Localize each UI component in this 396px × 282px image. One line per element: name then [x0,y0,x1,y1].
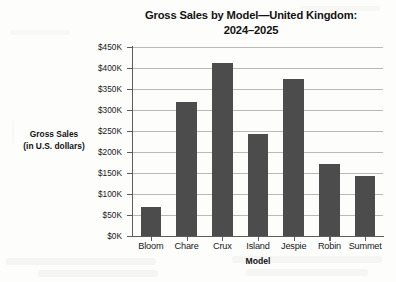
y-tick-label: $400K [64,64,122,73]
gridline [133,68,383,69]
y-tick-label: $250K [64,127,122,136]
bar[interactable] [176,102,197,236]
bar[interactable] [248,134,269,236]
bar-chart: Gross Sales by Model—United Kingdom: 202… [0,0,396,282]
gridline [133,110,383,111]
y-tick-mark [127,173,132,174]
chart-title-line-2: 2024–2025 [110,23,392,38]
bar[interactable] [212,63,233,236]
x-tick-label: Summet [343,241,387,252]
y-tick-label: $0K [64,232,122,241]
gridline [133,89,383,90]
y-tick-mark [127,131,132,132]
gridline [133,47,383,48]
bar[interactable] [355,176,376,236]
chart-title-line-1: Gross Sales by Model—United Kingdom: [110,8,392,23]
y-tick-label: $300K [64,106,122,115]
bar[interactable] [283,79,304,236]
bar[interactable] [141,207,162,236]
plot-area [133,47,383,236]
y-tick-mark [127,152,132,153]
y-tick-label: $350K [64,85,122,94]
y-tick-mark [127,194,132,195]
y-tick-mark [127,236,132,237]
chart-title: Gross Sales by Model—United Kingdom: 202… [110,8,392,38]
y-tick-mark [127,47,132,48]
x-axis-title: Model [133,256,383,266]
y-tick-mark [127,89,132,90]
y-tick-mark [127,215,132,216]
bar[interactable] [319,164,340,236]
y-tick-label: $450K [64,43,122,52]
gridline [133,131,383,132]
y-tick-label: $150K [64,169,122,178]
y-tick-label: $100K [64,190,122,199]
y-tick-mark [127,68,132,69]
y-tick-mark [127,110,132,111]
y-tick-label: $50K [64,211,122,220]
y-tick-label: $200K [64,148,122,157]
